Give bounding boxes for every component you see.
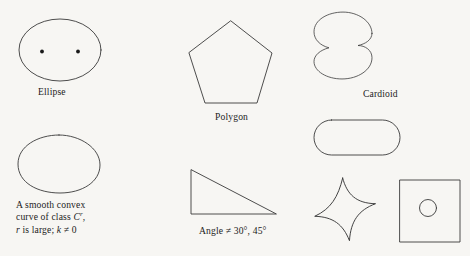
geometry-shapes-figure: Ellipse Polygon Cardioid A smooth convex… <box>0 0 470 256</box>
caption-polygon: Polygon <box>215 111 248 123</box>
astroid-shape <box>310 174 380 245</box>
ellipse-focus-left <box>40 50 44 54</box>
stadium-shape <box>314 120 400 155</box>
triangle-shape <box>191 170 276 214</box>
cardioid-shape <box>314 12 372 79</box>
caption-smooth-line2-post: , <box>83 211 86 222</box>
caption-smooth-line3-post: ≠ 0 <box>61 224 76 235</box>
caption-smooth-line2-pre: curve of class <box>16 211 73 222</box>
square-with-circle-shape <box>400 180 460 242</box>
caption-smooth-line3-mid: is large; <box>20 224 57 235</box>
ellipse-shape <box>19 19 101 81</box>
caption-ellipse: Ellipse <box>38 86 66 98</box>
inner-circle <box>420 200 437 217</box>
caption-smooth-line1: A smooth convex <box>16 199 85 210</box>
ellipse-focus-right <box>76 50 80 54</box>
pentagon-shape <box>189 21 272 103</box>
caption-cardioid: Cardioid <box>363 88 398 100</box>
caption-smooth-convex: A smooth convex curve of class Cr, r is … <box>16 199 146 236</box>
caption-angle: Angle ≠ 30°, 45° <box>199 225 267 237</box>
smooth-convex-shape <box>18 135 100 193</box>
